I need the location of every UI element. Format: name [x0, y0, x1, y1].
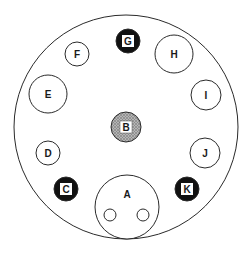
node-f: F — [65, 42, 89, 66]
node-label: G — [124, 36, 132, 47]
node-label: C — [62, 184, 69, 195]
node-label: A — [123, 189, 130, 200]
node-label: I — [205, 90, 208, 101]
node-k: K — [175, 177, 199, 201]
node-a: A — [95, 175, 159, 239]
node-label: B — [122, 122, 129, 133]
node-h: H — [155, 35, 193, 73]
diagram-canvas: ABCDEFGHIJK — [0, 0, 251, 254]
node-label: F — [74, 49, 80, 60]
node-i: I — [191, 80, 221, 110]
node-c: C — [54, 177, 78, 201]
node-b: B — [111, 112, 141, 142]
node-label: K — [183, 184, 191, 195]
circle-diagram: ABCDEFGHIJK — [0, 0, 251, 254]
node-label: J — [202, 148, 208, 159]
node-a-sub-circle — [104, 209, 116, 221]
node-label: H — [170, 49, 177, 60]
node-d: D — [36, 141, 60, 165]
node-e: E — [29, 75, 67, 113]
node-g: G — [116, 29, 140, 53]
node-a-circle — [95, 175, 159, 239]
node-label: E — [45, 89, 52, 100]
node-a-sub-circle — [137, 209, 149, 221]
node-label: D — [44, 148, 51, 159]
node-j: J — [190, 138, 220, 168]
